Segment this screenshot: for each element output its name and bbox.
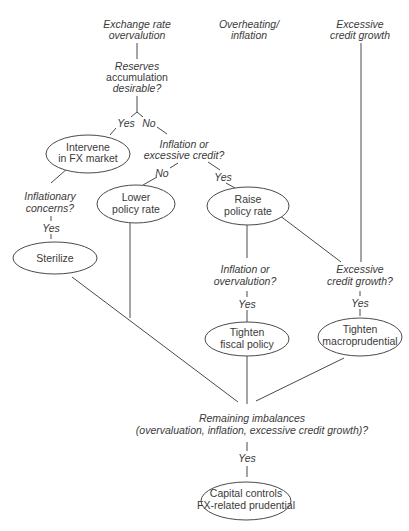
question-excessive-credit-line1: Excessive [336,263,383,275]
edge-ic-yes-bottom [226,183,235,188]
root-credit-line2: credit growth [330,29,390,41]
question-remaining-line2: (overvaluation, inflation, excessive cre… [136,424,368,436]
root-overheating-line2: inflation [231,29,267,41]
node-tighten-fiscal: Tighten fiscal policy [205,322,289,356]
node-intervene-fx: Intervene in FX market [46,135,130,173]
node-capital-line2: FX-related prudential [197,499,295,511]
node-capital-controls: Capital controls FX-related prudential [197,482,295,520]
edge-macro-to-remaining [256,358,344,401]
node-sterilize: Sterilize [13,242,97,274]
edge-ic-yes-top [208,162,220,170]
edge-raise-diagonal [279,215,341,262]
node-macro-line2: macroprudential [322,335,397,347]
node-capital-line1: Capital controls [210,487,282,499]
edge-no-to-inflation-credit [157,127,167,134]
node-lower-line1: Lower [122,191,151,203]
question-remaining-line1: Remaining imbalances [199,412,306,424]
label-inflation-overvaluation-yes: Yes [238,298,256,310]
label-excessive-credit-yes: Yes [351,297,369,309]
question-inflation-credit-line2: excessive credit? [144,149,225,161]
node-macro-line1: Tighten [343,323,378,335]
question-inflation-overvaluation-line1: Inflation or [220,263,270,275]
question-inflation-overvaluation-line2: overvalution? [214,275,277,287]
node-raise-policy-rate: Raise policy rate [207,187,289,225]
node-lower-policy-rate: Lower policy rate [97,185,175,223]
question-inflationary-line2: concerns? [26,202,75,214]
question-inflationary-line1: Inflationary [24,190,76,202]
node-fiscal-line2: fiscal policy [220,338,274,350]
edge-ic-no-top [170,163,178,168]
node-raise-line1: Raise [235,193,262,205]
label-remaining-yes: Yes [238,452,256,464]
label-reserves-yes: Yes [117,117,135,129]
edge-yes-to-intervene [110,128,116,135]
label-inflationary-yes: Yes [42,222,60,234]
policy-decision-flowchart: Exchange rate overvalution Overheating/ … [0,0,409,531]
node-intervene-line2: in FX market [58,152,118,164]
question-reserves-line3: desirable? [113,82,162,94]
question-excessive-credit-line2: credit growth? [327,275,393,287]
label-inflation-credit-no: No [155,167,169,179]
node-sterilize-label: Sterilize [36,252,74,264]
node-lower-line2: policy rate [112,203,160,215]
root-exchange-rate-line2: overvalution [109,29,166,41]
label-inflation-credit-yes: Yes [214,171,232,183]
node-raise-line2: policy rate [224,205,272,217]
node-fiscal-line1: Tighten [230,326,265,338]
label-reserves-no: No [142,117,156,129]
node-tighten-macroprudential: Tighten macroprudential [318,318,402,356]
